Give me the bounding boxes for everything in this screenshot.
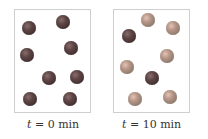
molecule-sphere-dark bbox=[23, 92, 37, 106]
molecule-sphere-dark bbox=[70, 70, 84, 84]
molecule-sphere-light bbox=[160, 49, 174, 63]
label-t10: t = 10 min bbox=[122, 118, 181, 131]
molecule-sphere-dark bbox=[122, 29, 136, 43]
molecule-sphere-dark bbox=[42, 71, 56, 85]
molecule-sphere-light bbox=[141, 13, 155, 27]
molecule-sphere-light bbox=[128, 92, 142, 106]
molecule-sphere-dark bbox=[64, 41, 78, 55]
molecule-sphere-dark bbox=[20, 48, 34, 62]
molecule-sphere-dark bbox=[63, 92, 77, 106]
molecule-sphere-dark bbox=[145, 71, 159, 85]
molecule-sphere-light bbox=[163, 90, 177, 104]
molecule-sphere-light bbox=[120, 60, 134, 74]
label-t0: t = 0 min bbox=[27, 118, 79, 131]
molecule-sphere-dark bbox=[22, 21, 36, 35]
label-t0-eq: = 0 min bbox=[31, 118, 79, 131]
label-t10-eq: = 10 min bbox=[126, 118, 181, 131]
molecule-sphere-dark bbox=[56, 15, 70, 29]
molecule-sphere-light bbox=[166, 21, 180, 35]
